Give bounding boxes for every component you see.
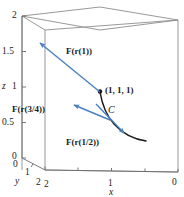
z-tick-label-1: 1 xyxy=(12,82,17,92)
x-tick-label-2: 2 xyxy=(44,180,49,190)
vector-label-r1: F(r(1)) xyxy=(66,47,92,56)
vector-field-figure: 2 1.5 1 0.5 0 z 0 1 2 y 2 1 0 x F(r(1)) … xyxy=(0,0,184,197)
z-axis xyxy=(22,16,26,158)
x-axis xyxy=(45,167,178,173)
y-tick-label-2: 2 xyxy=(36,178,41,188)
z-tick-label-0p5: 0.5 xyxy=(2,118,14,128)
z-tick-label-1p5: 1.5 xyxy=(2,47,14,57)
z-axis-name: z xyxy=(2,82,6,92)
x-axis-name: x xyxy=(109,188,113,197)
curve-c xyxy=(100,92,146,141)
z-tick-label-2: 2 xyxy=(12,11,17,21)
vector-label-r1-2: F(r(1/2)) xyxy=(66,138,99,147)
y-tick-label-0: 0 xyxy=(13,160,18,170)
x-tick-label-0: 0 xyxy=(172,178,177,188)
y-tick-1 xyxy=(31,164,33,167)
box-top-face xyxy=(22,7,178,30)
y-tick-label-1: 1 xyxy=(25,168,30,178)
curve-label-c: C xyxy=(108,105,115,115)
point-label-111: (1, 1, 1) xyxy=(105,86,134,95)
y-axis-name: y xyxy=(15,177,19,187)
vector-label-r3-4: F(r(3/4)) xyxy=(12,105,45,114)
